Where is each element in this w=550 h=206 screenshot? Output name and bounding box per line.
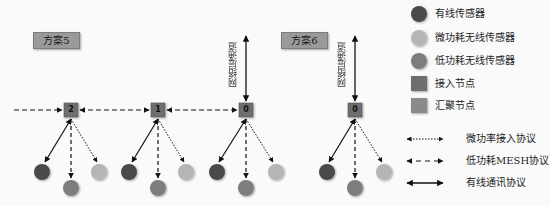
node-id-label: 0 [348, 103, 362, 117]
micro-power-sensor [376, 164, 392, 180]
legend-label-low-power-sensor: 低功耗无线传感器 [435, 55, 515, 67]
network-layer-channel-label: 网络层通道 [227, 42, 237, 87]
legend-symbols [411, 6, 427, 113]
sensors [34, 164, 392, 196]
wired-sensor [121, 164, 137, 180]
scheme-5-label: 方案5 [33, 32, 80, 49]
wired-sensor [34, 164, 50, 180]
wired-sensor [209, 164, 225, 180]
legend-low-power-sensor-icon [411, 53, 427, 69]
legend-label-aggregation-node: 汇聚节点 [435, 100, 475, 112]
legend-label-wired-protocol: 有线通讯协议 [466, 177, 526, 189]
legend-label-micro-power-protocol: 微功率接入协议 [466, 133, 536, 145]
micro-power-sensor [178, 164, 194, 180]
low-power-sensor [63, 180, 79, 196]
legend-micro-power-sensor-icon [411, 30, 427, 46]
micro-power-sensor [91, 164, 107, 180]
legend-label-access-node: 接入节点 [435, 78, 475, 90]
legend-label-mesh-protocol: 低功耗MESH协议 [466, 155, 549, 167]
wired-sensor [319, 164, 335, 180]
legend-aggregation-node-icon [411, 98, 427, 113]
micro-power-sensor [268, 164, 284, 180]
legend-lines [407, 139, 443, 183]
legend-access-node-icon [411, 76, 427, 91]
legend-wired-sensor-icon [411, 6, 427, 22]
node-id-label: 2 [64, 103, 78, 117]
node-id-label: 0 [239, 103, 253, 117]
scheme-6-label: 方案6 [281, 32, 328, 49]
network-layer-channel-label: 网络层通道 [336, 42, 346, 87]
low-power-sensor [238, 180, 254, 196]
low-power-sensor [150, 180, 166, 196]
legend-label-micro-power-sensor: 微功耗无线传感器 [435, 32, 515, 44]
node-id-label: 1 [151, 103, 165, 117]
legend-label-wired-sensor: 有线传感器 [435, 8, 485, 20]
low-power-sensor [347, 180, 363, 196]
